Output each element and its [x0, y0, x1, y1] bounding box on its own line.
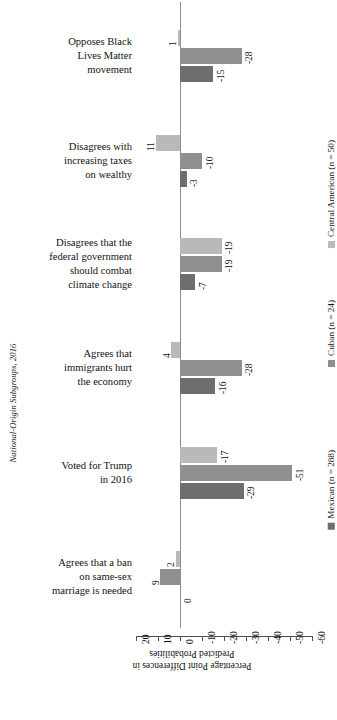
bar-group-row: -3 — [136, 171, 288, 187]
bar-group-row: -17 — [136, 447, 288, 463]
bar-value-label: -15 — [217, 70, 226, 83]
category-label-line: the economy — [4, 375, 132, 389]
bar[interactable] — [180, 447, 217, 463]
bar-group-row: 0 — [136, 587, 288, 603]
category-label-line: immigrants hurt — [4, 361, 132, 375]
x-axis-tick — [224, 636, 225, 641]
x-axis-title-line: Predicted Probabilities — [132, 648, 252, 660]
legend-swatch — [328, 523, 335, 530]
category-label-line: climate change — [4, 278, 132, 292]
bar-value-label: 0 — [184, 598, 193, 603]
bar-group-row: 1 — [136, 30, 288, 46]
bar-value-label: -16 — [219, 382, 228, 395]
bar-group-row: -16 — [136, 378, 288, 394]
category-label-line: federal government — [4, 250, 132, 264]
bar-value-label: 4 — [163, 353, 172, 358]
category-label-line: Agrees that — [4, 347, 132, 361]
x-axis-tick — [268, 636, 269, 641]
x-axis-tick — [180, 636, 181, 641]
bar-value-label: 2 — [167, 562, 176, 567]
bar-group-row: 9 — [136, 569, 288, 585]
category-label: Voted for Trumpin 2016 — [4, 459, 132, 487]
x-axis-title: Percentage Point Differences inPredicted… — [132, 648, 252, 672]
bar[interactable] — [180, 238, 222, 254]
bar[interactable] — [171, 342, 180, 358]
category-label-line: increasing taxes — [4, 154, 132, 168]
bar[interactable] — [180, 360, 242, 376]
bar-group-row: -19 — [136, 238, 288, 254]
category-label: Disagrees that thefederal governmentshou… — [4, 236, 132, 293]
category-label-line: Disagrees that the — [4, 236, 132, 250]
bar[interactable] — [180, 66, 213, 82]
category-label-line: Opposes Black — [4, 35, 132, 49]
bar-group-row: 2 — [136, 551, 288, 567]
legend-item[interactable]: Central American (n = 50) — [326, 140, 337, 248]
legend-label: Central American (n = 50) — [326, 140, 337, 237]
category-label: Opposes BlackLives Mattermovement — [4, 35, 132, 78]
bar-value-label: -17 — [221, 451, 230, 464]
legend-label: Mexican (n = 288) — [326, 450, 337, 519]
bar-value-label: -10 — [206, 157, 215, 170]
bar-group-row: -28 — [136, 360, 288, 376]
bar-group-row: -28 — [136, 48, 288, 64]
category-label-column: Opposes BlackLives MattermovementDisagre… — [0, 0, 136, 628]
x-axis-tick-label: -30 — [251, 631, 261, 644]
bar-value-label: -29 — [247, 487, 256, 500]
bar-value-label: -19 — [225, 260, 234, 273]
bar-value-label: 1 — [169, 41, 178, 46]
x-axis-tick — [246, 636, 247, 641]
bar[interactable] — [180, 171, 187, 187]
category-label-line: should combat — [4, 264, 132, 278]
legend: Central American (n = 50)Cuban (n = 24)M… — [288, 0, 328, 720]
bar[interactable] — [156, 135, 180, 151]
legend-item[interactable]: Mexican (n = 288) — [326, 450, 337, 530]
bar-value-label: -3 — [190, 179, 199, 187]
category-label: Disagrees withincreasing taxeson wealthy — [4, 140, 132, 183]
bar[interactable] — [180, 465, 292, 481]
x-axis-tick — [136, 636, 137, 641]
bar-group-row: 11 — [136, 135, 288, 151]
category-label-line: Agrees that a ban — [4, 556, 132, 570]
x-axis-tick-label: 20 — [141, 634, 151, 644]
bar-value-label: -7 — [199, 282, 208, 290]
bar-group-row: -15 — [136, 66, 288, 82]
bar-value-label: -28 — [245, 364, 254, 377]
category-label: Agrees thatimmigrants hurtthe economy — [4, 347, 132, 390]
bar-value-label: -28 — [245, 52, 254, 65]
bar[interactable] — [180, 483, 244, 499]
category-label-line: on wealthy — [4, 168, 132, 182]
x-axis-tick-label: 0 — [185, 639, 195, 644]
legend-swatch — [328, 241, 335, 248]
bar[interactable] — [180, 48, 242, 64]
bar-group-row: -51 — [136, 465, 288, 481]
bar-group-row: -7 — [136, 274, 288, 290]
bar[interactable] — [180, 378, 215, 394]
bar-group-row: -10 — [136, 153, 288, 169]
x-axis-tick-label: -40 — [273, 631, 283, 644]
bar-value-label: -19 — [225, 242, 234, 255]
category-label-line: Disagrees with — [4, 140, 132, 154]
bar[interactable] — [160, 569, 180, 585]
legend-swatch — [328, 360, 335, 367]
bar-value-label: 9 — [152, 580, 161, 585]
category-label-line: marriage is needed — [4, 584, 132, 598]
x-axis-title-line: Percentage Point Differences in — [132, 660, 252, 672]
zero-reference-line — [180, 2, 181, 628]
bar-group-row: -19 — [136, 256, 288, 272]
legend-label: Cuban (n = 24) — [326, 300, 337, 356]
bar-value-label: 11 — [147, 142, 156, 151]
x-axis-tick — [202, 636, 203, 641]
category-label-line: movement — [4, 63, 132, 77]
legend-item[interactable]: Cuban (n = 24) — [326, 300, 337, 367]
category-label-line: on same-sex — [4, 570, 132, 584]
x-axis-tick — [158, 636, 159, 641]
bar[interactable] — [180, 256, 222, 272]
plot-area: 1-28-1511-10-3-19-19-74-28-16-17-51-2929… — [136, 0, 288, 628]
bar[interactable] — [180, 274, 195, 290]
category-label: Agrees that a banon same-sexmarriage is … — [4, 556, 132, 599]
bar[interactable] — [180, 153, 202, 169]
bar-group-row: 4 — [136, 342, 288, 358]
bar-group-row: -29 — [136, 483, 288, 499]
x-axis-tick-label: -10 — [207, 631, 217, 644]
